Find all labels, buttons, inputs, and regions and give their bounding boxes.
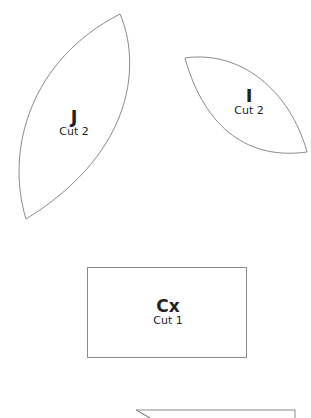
piece-j-letter: J: [59, 108, 88, 126]
piece-j-label: J Cut 2: [59, 108, 88, 138]
piece-cx-letter: Cx: [153, 298, 182, 315]
piece-i-label: I Cut 2: [234, 87, 263, 117]
piece-i-letter: I: [234, 87, 263, 105]
pattern-canvas: [0, 0, 311, 418]
piece-j-cut: Cut 2: [59, 126, 88, 138]
piece-partial-outline: [136, 410, 295, 418]
piece-cx-label: Cx Cut 1: [153, 298, 182, 327]
piece-i-cut: Cut 2: [234, 105, 263, 117]
piece-cx-cut: Cut 1: [153, 315, 182, 327]
